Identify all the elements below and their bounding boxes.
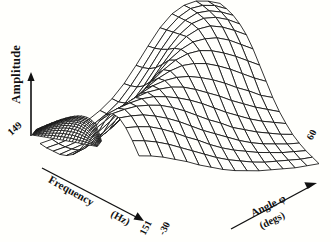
surface-plot-figure [0, 0, 331, 242]
amplitude-axis-label: Amplitude [10, 42, 23, 106]
